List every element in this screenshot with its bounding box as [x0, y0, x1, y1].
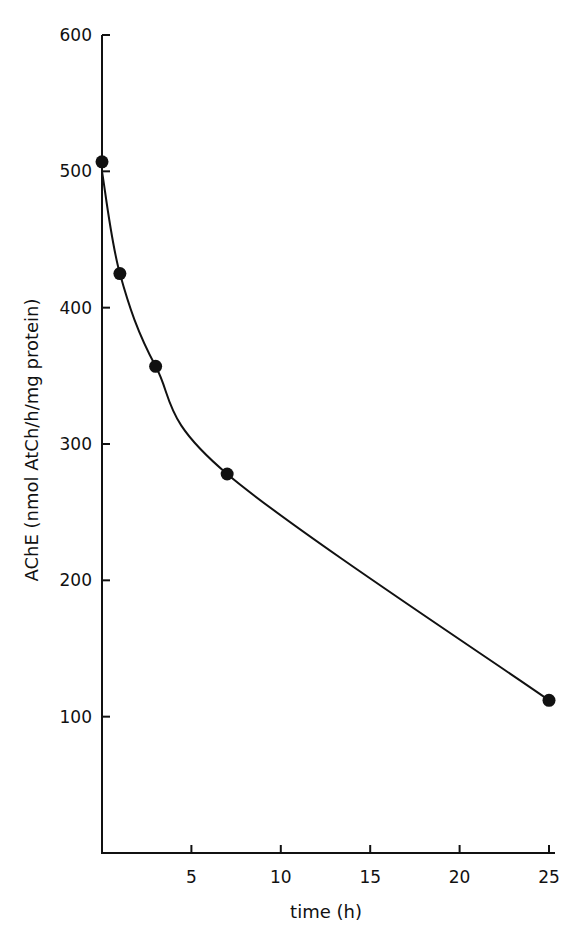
x-axis-ticks: 510152025: [186, 845, 560, 887]
y-tick-label: 100: [60, 707, 92, 727]
x-tick-label: 20: [449, 867, 471, 887]
x-axis-title: time (h): [290, 901, 362, 922]
y-tick-label: 200: [60, 570, 92, 590]
y-tick-label: 500: [60, 161, 92, 181]
y-axis-title: AChE (nmol AtCh/h/mg protein): [21, 298, 42, 581]
data-point-marker: [543, 694, 556, 707]
decay-curve: [102, 171, 549, 700]
y-tick-label: 400: [60, 298, 92, 318]
data-point-marker: [113, 267, 126, 280]
data-point-marker: [149, 360, 162, 373]
axes: [101, 35, 555, 854]
data-points: [96, 155, 556, 707]
x-tick-label: 5: [186, 867, 197, 887]
x-tick-label: 10: [270, 867, 292, 887]
data-point-marker: [221, 467, 234, 480]
data-point-marker: [96, 155, 109, 168]
y-tick-label: 300: [60, 434, 92, 454]
x-tick-label: 15: [359, 867, 381, 887]
chart-canvas: 100200300400500600 510152025 time (h) AC…: [0, 0, 577, 931]
x-tick-label: 25: [538, 867, 560, 887]
y-tick-label: 600: [60, 25, 92, 45]
